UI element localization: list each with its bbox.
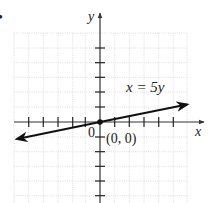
origin-label: 0 (88, 125, 95, 140)
problem-bullet: • (0, 10, 3, 25)
equation-label: x = 5y (125, 79, 165, 95)
x-axis-label: x (194, 124, 202, 139)
point-label: (0, 0) (106, 131, 137, 147)
graph-of-x-equals-5y: • (0, 0, 224, 203)
origin-point (97, 119, 103, 125)
y-axis-label: y (86, 9, 95, 24)
